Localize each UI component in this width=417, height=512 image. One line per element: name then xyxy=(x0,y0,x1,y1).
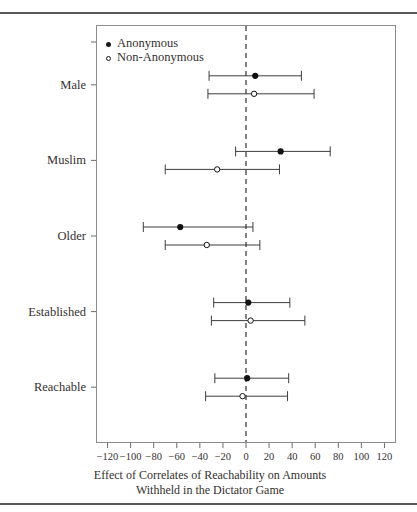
legend-item-anonymous: Anonymous xyxy=(106,36,204,50)
point-marker-anonymous-established xyxy=(245,300,251,306)
x-axis-caption: Effect of Correlates of Reachability on … xyxy=(60,468,360,498)
open-circle-icon xyxy=(106,50,117,64)
y-axis-label-muslim: Muslim xyxy=(0,154,86,167)
y-axis-label-established: Established xyxy=(0,306,86,319)
y-axis-label-older: Older xyxy=(0,230,86,243)
legend-label-non-anonymous: Non-Anonymous xyxy=(117,50,204,64)
point-marker-non-anonymous-established xyxy=(248,318,253,323)
point-marker-non-anonymous-muslim xyxy=(214,167,219,172)
legend: Anonymous Non-Anonymous xyxy=(106,36,204,64)
x-axis-caption-line-2: Withheld in the Dictator Game xyxy=(60,483,360,498)
y-axis-label-reachable: Reachable xyxy=(0,381,86,394)
point-marker-non-anonymous-older xyxy=(204,242,209,247)
x-axis-caption-line-1: Effect of Correlates of Reachability on … xyxy=(60,468,360,483)
point-marker-non-anonymous-male xyxy=(251,91,256,96)
point-marker-anonymous-reachable xyxy=(244,375,250,381)
point-marker-anonymous-male xyxy=(252,73,258,79)
plot-canvas xyxy=(0,0,417,512)
filled-circle-icon xyxy=(106,36,117,50)
point-marker-anonymous-older xyxy=(177,224,183,230)
y-axis-label-male: Male xyxy=(0,79,86,92)
point-marker-non-anonymous-reachable xyxy=(240,394,245,399)
x-tick-label-12: 120 xyxy=(360,451,408,462)
legend-item-non-anonymous: Non-Anonymous xyxy=(106,50,204,64)
point-marker-anonymous-muslim xyxy=(278,148,284,154)
forest-plot-figure: Anonymous Non-Anonymous Effect of Correl… xyxy=(0,0,417,512)
legend-label-anonymous: Anonymous xyxy=(117,36,178,50)
